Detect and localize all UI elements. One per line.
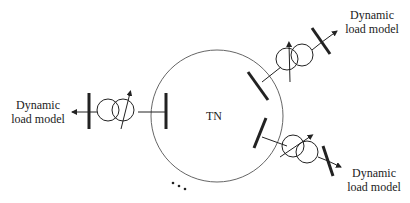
load-label-left: Dynamic load model (4, 98, 72, 126)
load-label-ur-line1: Dynamic (338, 8, 406, 22)
load-label-left-line1: Dynamic (4, 98, 72, 112)
load-arrow-upper-right (322, 31, 337, 42)
transformer-winding-ur-b (291, 44, 313, 66)
load-label-upper-right: Dynamic load model (338, 8, 406, 36)
tap-arrow-upper-right (289, 44, 290, 82)
internal-bus-lower-right (254, 118, 266, 148)
tap-arrow-left (121, 93, 130, 129)
network-label: TN (206, 109, 222, 123)
transformer-winding-ur-a (276, 48, 298, 70)
load-label-lower-right: Dynamic load model (340, 166, 408, 194)
load-label-lr-line2: load model (340, 180, 408, 194)
load-bus-upper-right (312, 28, 330, 54)
load-label-ur-line2: load model (338, 22, 406, 36)
upper-right-branch (248, 28, 337, 100)
load-label-left-line2: load model (4, 112, 72, 126)
internal-bus-upper-right (248, 72, 268, 100)
lower-right-branch (254, 118, 341, 176)
ellipsis-dots (172, 182, 187, 191)
transformer-winding-left-b (112, 99, 134, 121)
load-label-lr-line1: Dynamic (340, 166, 408, 180)
